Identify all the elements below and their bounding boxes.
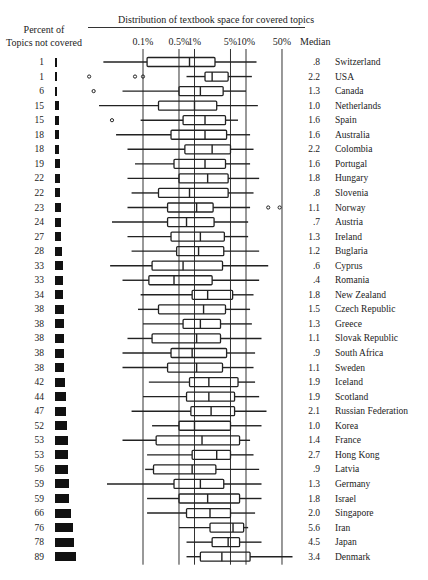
- median-value: 1.6: [300, 130, 320, 140]
- pct-not-covered-value: 52: [20, 421, 44, 431]
- boxplot-sweden: [123, 363, 254, 372]
- country-label: Hungary: [335, 173, 368, 183]
- median-value: 1.5: [300, 304, 320, 314]
- pct-not-covered-value: 38: [20, 304, 44, 314]
- country-label: Romania: [335, 275, 369, 285]
- median-value: 3.4: [300, 552, 320, 562]
- median-value: 2.2: [300, 144, 320, 154]
- pct-not-covered-bar: [55, 247, 62, 256]
- boxplot-slovenia: [132, 188, 254, 197]
- median-value: .7: [300, 217, 320, 227]
- median-value: 1.3: [300, 86, 320, 96]
- boxplot-south-africa: [123, 349, 256, 358]
- boxplot-australia: [116, 130, 250, 139]
- country-label: Switzerland: [335, 57, 380, 67]
- median-value: 1.0: [300, 101, 320, 111]
- median-value: 4.5: [300, 537, 320, 547]
- country-label: Australia: [335, 130, 370, 140]
- median-value: 1.3: [300, 232, 320, 242]
- median-value: 5.6: [300, 523, 320, 533]
- boxplot-scotland: [143, 392, 259, 401]
- country-label: Germany: [335, 479, 370, 489]
- pct-not-covered-value: 53: [20, 450, 44, 460]
- boxplot-latvia: [145, 465, 259, 474]
- pct-not-covered-value: 42: [20, 377, 44, 387]
- median-value: .8: [300, 188, 320, 198]
- pct-not-covered-bar: [55, 290, 63, 299]
- country-label: Colombia: [335, 144, 372, 154]
- pct-not-covered-bar: [55, 378, 65, 387]
- pct-not-covered-bar: [55, 276, 63, 285]
- pct-not-covered-value: 28: [20, 246, 44, 256]
- boxplot-hungary: [127, 174, 259, 183]
- country-label: Korea: [335, 421, 358, 431]
- pct-not-covered-bar: [55, 392, 66, 401]
- median-value: 1.4: [300, 435, 320, 445]
- pct-not-covered-value: 59: [20, 479, 44, 489]
- boxplot-germany: [107, 479, 262, 488]
- pct-not-covered-value: 47: [20, 406, 44, 416]
- country-label: Buglaria: [335, 246, 368, 256]
- boxplot-iran: [179, 523, 248, 532]
- pct-not-covered-bar: [55, 407, 66, 416]
- country-label: France: [335, 435, 361, 445]
- median-value: 1.9: [300, 392, 320, 402]
- country-label: Japan: [335, 537, 357, 547]
- pct-not-covered-value: 6: [20, 86, 44, 96]
- pct-not-covered-value: 66: [20, 508, 44, 518]
- pct-not-covered-value: 89: [20, 552, 44, 562]
- boxplot-denmark: [187, 552, 293, 561]
- pct-not-covered-bar: [55, 159, 60, 168]
- pct-not-covered-value: 78: [20, 537, 44, 547]
- median-value: 1.3: [300, 319, 320, 329]
- median-value: 1.1: [300, 333, 320, 343]
- country-label: Hong Kong: [335, 450, 380, 460]
- median-value: 1.9: [300, 377, 320, 387]
- boxplot-buglaria: [132, 247, 260, 256]
- boxplot-singapore: [147, 509, 255, 518]
- boxplot-iceland: [149, 378, 255, 387]
- country-label: Spain: [335, 115, 357, 125]
- pct-not-covered-value: 59: [20, 494, 44, 504]
- pct-not-covered-bar: [55, 349, 64, 358]
- boxplot-hong-kong: [147, 450, 253, 459]
- pct-not-covered-bar: [55, 450, 68, 459]
- country-label: Denmark: [335, 552, 370, 562]
- country-label: Iran: [335, 523, 350, 533]
- median-value: 1.6: [300, 159, 320, 169]
- median-value: 2.0: [300, 508, 320, 518]
- boxplot-portugal: [135, 159, 250, 168]
- country-label: USA: [335, 72, 354, 82]
- boxplot-spain: [110, 116, 238, 125]
- pct-not-covered-value: 18: [20, 130, 44, 140]
- pct-not-covered-value: 53: [20, 435, 44, 445]
- median-value: .9: [300, 464, 320, 474]
- pct-not-covered-bar: [55, 305, 64, 314]
- country-label: Iceland: [335, 377, 363, 387]
- boxplot-greece: [143, 319, 252, 328]
- country-label: New Zealand: [335, 290, 386, 300]
- median-value: 1.8: [300, 290, 320, 300]
- pct-not-covered-bar: [55, 72, 57, 81]
- pct-not-covered-bar: [55, 494, 69, 503]
- pct-not-covered-bar: [55, 203, 61, 212]
- pct-not-covered-bar: [55, 523, 73, 532]
- boxplot-usa: [88, 72, 252, 81]
- country-label: Sweden: [335, 363, 365, 373]
- country-label: Austria: [335, 217, 363, 227]
- country-label: Singapore: [335, 508, 374, 518]
- pct-not-covered-bar: [55, 188, 60, 197]
- country-label: Ireland: [335, 232, 362, 242]
- pct-not-covered-bar: [55, 130, 59, 139]
- country-label: Russian Federation: [335, 406, 408, 416]
- pct-not-covered-value: 56: [20, 464, 44, 474]
- pct-not-covered-bar: [55, 174, 60, 183]
- median-value: 1.1: [300, 203, 320, 213]
- pct-not-covered-bar: [55, 421, 67, 430]
- boxplot-colombia: [127, 145, 253, 154]
- median-value: 2.2: [300, 72, 320, 82]
- pct-not-covered-bar: [55, 58, 57, 67]
- pct-not-covered-value: 1: [20, 72, 44, 82]
- pct-not-covered-bar: [55, 232, 61, 241]
- pct-not-covered-value: 23: [20, 203, 44, 213]
